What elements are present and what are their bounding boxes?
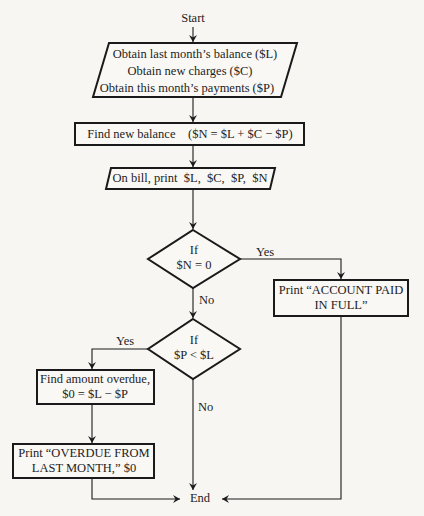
decision-overdue-line-1: If (190, 333, 198, 348)
flowchart-canvas: Start Obtain last month’s balance ($L) O… (0, 0, 424, 516)
paid-in-full-line-2: IN FULL” (314, 298, 367, 313)
decision-paid-line-2: $N = 0 (177, 258, 212, 273)
input-line-2: Obtain new charges ($C) (127, 64, 252, 79)
start-terminal: Start (181, 11, 205, 26)
compute-overdue-line-2: $0 = $L − $P (62, 387, 128, 402)
compute-balance-text: Find new balance ($N = $L + $C − $P) (87, 127, 292, 142)
input-line-3: Obtain this month’s payments ($P) (100, 81, 274, 96)
end-terminal: End (190, 491, 210, 506)
input-line-1: Obtain last month’s balance ($L) (113, 47, 278, 62)
decision-overdue-yes-label: Yes (116, 334, 134, 349)
decision-paid-line-1: If (190, 243, 198, 258)
decision-paid-no-label: No (199, 293, 214, 308)
decision-overdue-line-2: $P < $L (174, 348, 214, 363)
decision-overdue-no-label: No (198, 400, 213, 415)
print-overdue-line-1: Print “OVERDUE FROM (18, 446, 149, 461)
print-bill-text: On bill, print $L, $C, $P, $N (113, 171, 268, 186)
print-overdue-line-2: LAST MONTH,” $0 (32, 461, 136, 476)
compute-overdue-line-1: Find amount overdue, (40, 372, 150, 387)
decision-paid-yes-label: Yes (256, 245, 274, 260)
paid-in-full-line-1: Print “ACCOUNT PAID (279, 283, 403, 298)
